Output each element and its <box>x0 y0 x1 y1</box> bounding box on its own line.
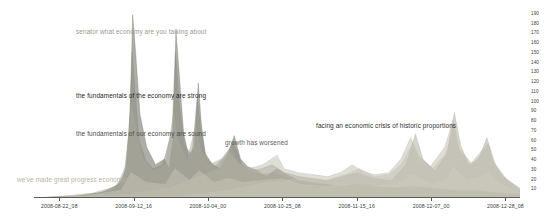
y-tick-label: 100 <box>531 98 539 103</box>
x-tick-label: 2008-12-07_00 <box>413 203 450 209</box>
chart-root: 2008-08-22_082008-09-12_162008-10-04_002… <box>0 0 560 224</box>
y-tick-label: 110 <box>531 88 539 93</box>
y-tick-label: 160 <box>531 40 539 45</box>
y-tick-label: 190 <box>531 10 539 15</box>
x-tick-mark <box>357 197 358 201</box>
area-chart-svg <box>34 8 520 198</box>
x-tick-label: 2008-10-25_08 <box>264 203 301 209</box>
y-tick-label: 20 <box>531 176 536 181</box>
y-tick-label: 80 <box>531 118 536 123</box>
y-tick-label: 70 <box>531 127 536 132</box>
x-tick-mark <box>59 197 60 201</box>
y-tick-label: 140 <box>531 59 539 64</box>
y-tick-label: 30 <box>531 166 536 171</box>
x-tick-mark <box>208 197 209 201</box>
y-tick-label: 180 <box>531 20 539 25</box>
x-tick-mark <box>134 197 135 201</box>
y-tick-label: 150 <box>531 49 539 54</box>
x-tick-mark <box>505 197 506 201</box>
x-tick-mark <box>282 197 283 201</box>
y-tick-label: 50 <box>531 147 536 152</box>
y-tick-label: 170 <box>531 30 539 35</box>
x-tick-mark <box>431 197 432 201</box>
y-tick-label: 120 <box>531 79 539 84</box>
x-axis-line <box>34 197 520 198</box>
y-tick-label: 90 <box>531 108 536 113</box>
y-tick-label: 60 <box>531 137 536 142</box>
x-tick-label: 2008-09-12_16 <box>115 203 152 209</box>
x-tick-label: 2008-08-22_08 <box>41 203 78 209</box>
y-tick-label: 40 <box>531 157 536 162</box>
y-tick-label: 130 <box>531 69 539 74</box>
plot-area <box>34 8 520 198</box>
series-group <box>34 15 520 198</box>
x-tick-label: 2008-10-04_00 <box>190 203 227 209</box>
y-tick-label: 10 <box>531 186 536 191</box>
x-tick-label: 2008-11-15_16 <box>339 203 375 209</box>
x-tick-label: 2008-12-28_08 <box>487 203 524 209</box>
